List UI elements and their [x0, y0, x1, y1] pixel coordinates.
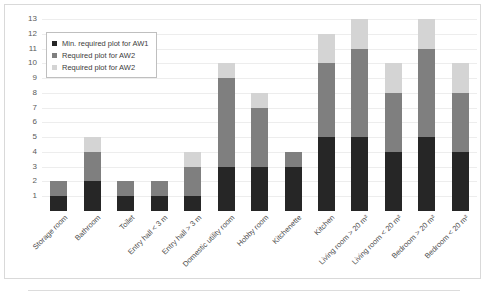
bar-segment[interactable]: [452, 152, 469, 211]
y-axis-tick-label: 11: [13, 45, 37, 53]
y-axis-tick-label: 2: [13, 177, 37, 185]
stacked-bar[interactable]: [184, 152, 201, 211]
bar-group[interactable]: [410, 19, 443, 211]
bar-segment[interactable]: [418, 137, 435, 211]
bar-segment[interactable]: [218, 167, 235, 211]
bar-segment[interactable]: [318, 137, 335, 211]
stacked-bar[interactable]: [385, 63, 402, 211]
bar-group[interactable]: [209, 19, 242, 211]
bar-group[interactable]: [243, 19, 276, 211]
stacked-bar[interactable]: [452, 63, 469, 211]
bar-segment[interactable]: [50, 196, 67, 211]
stacked-bar[interactable]: [251, 93, 268, 211]
y-axis-tick-label: 8: [13, 89, 37, 97]
legend-swatch-icon: [52, 41, 57, 46]
bar-segment[interactable]: [117, 196, 134, 211]
bar-segment[interactable]: [151, 181, 168, 196]
bar-segment[interactable]: [452, 63, 469, 93]
bar-segment[interactable]: [385, 63, 402, 93]
y-axis-tick-label: 13: [13, 15, 37, 23]
bar-group[interactable]: [276, 19, 309, 211]
stacked-bar[interactable]: [84, 137, 101, 211]
y-axis-tick-label: 9: [13, 74, 37, 82]
legend-label: Required plot for AW2: [62, 63, 135, 72]
bar-segment[interactable]: [418, 49, 435, 138]
bar-segment[interactable]: [84, 152, 101, 182]
bar-group[interactable]: [343, 19, 376, 211]
y-axis-tick-label: 1: [13, 192, 37, 200]
y-axis: 12345678910111213: [10, 19, 37, 211]
y-axis-tick-label: 3: [13, 163, 37, 171]
legend-item[interactable]: Required plot for AW2: [52, 49, 148, 61]
bar-segment[interactable]: [351, 19, 368, 49]
stacked-bar[interactable]: [117, 181, 134, 211]
bottom-divider: [28, 290, 460, 291]
y-axis-tick-label: 10: [13, 59, 37, 67]
bar-segment[interactable]: [285, 167, 302, 211]
stacked-bar[interactable]: [418, 19, 435, 211]
bar-segment[interactable]: [218, 78, 235, 167]
bar-segment[interactable]: [385, 152, 402, 211]
legend-label: Required plot for AW2: [62, 51, 135, 60]
bar-segment[interactable]: [184, 152, 201, 167]
bar-segment[interactable]: [184, 167, 201, 197]
bar-segment[interactable]: [84, 137, 101, 152]
stacked-bar[interactable]: [218, 63, 235, 211]
bar-segment[interactable]: [418, 19, 435, 49]
bar-segment[interactable]: [385, 93, 402, 152]
bar-segment[interactable]: [285, 152, 302, 167]
bar-segment[interactable]: [84, 181, 101, 211]
bar-segment[interactable]: [117, 181, 134, 196]
chart-legend: Min. required plot for AW1Required plot …: [46, 32, 157, 78]
bar-segment[interactable]: [184, 196, 201, 211]
bar-segment[interactable]: [151, 196, 168, 211]
stacked-bar[interactable]: [50, 181, 67, 211]
bar-segment[interactable]: [251, 167, 268, 211]
y-axis-tick-label: 12: [13, 30, 37, 38]
legend-swatch-icon: [52, 53, 57, 58]
bar-group[interactable]: [444, 19, 477, 211]
legend-swatch-icon: [52, 65, 57, 70]
bar-segment[interactable]: [218, 63, 235, 78]
legend-item[interactable]: Required plot for AW2: [52, 61, 148, 73]
stacked-bar[interactable]: [351, 19, 368, 211]
y-axis-tick-label: 4: [13, 148, 37, 156]
legend-item[interactable]: Min. required plot for AW1: [52, 37, 148, 49]
bar-segment[interactable]: [318, 34, 335, 64]
stacked-bar[interactable]: [151, 181, 168, 211]
bar-group[interactable]: [310, 19, 343, 211]
bar-segment[interactable]: [351, 137, 368, 211]
bar-segment[interactable]: [251, 108, 268, 167]
stacked-bar[interactable]: [285, 152, 302, 211]
bar-segment[interactable]: [351, 49, 368, 138]
bar-segment[interactable]: [318, 63, 335, 137]
bar-group[interactable]: [176, 19, 209, 211]
stacked-bar[interactable]: [318, 34, 335, 211]
legend-label: Min. required plot for AW1: [62, 39, 148, 48]
y-axis-tick-label: 6: [13, 118, 37, 126]
y-axis-tick-label: 7: [13, 104, 37, 112]
chart-frame: 12345678910111213 Storage roomBathroomTo…: [4, 4, 481, 279]
bar-segment[interactable]: [251, 93, 268, 108]
bar-segment[interactable]: [50, 181, 67, 196]
y-axis-tick-label: 5: [13, 133, 37, 141]
bar-segment[interactable]: [452, 93, 469, 152]
bar-group[interactable]: [377, 19, 410, 211]
